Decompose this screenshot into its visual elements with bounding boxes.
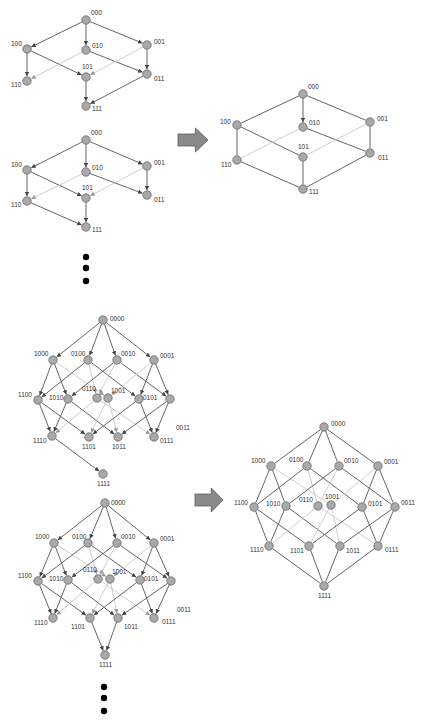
node-0100 bbox=[84, 539, 92, 547]
edge-0011-0111 bbox=[156, 585, 169, 614]
node-1000 bbox=[50, 539, 58, 547]
edge-010-110 bbox=[31, 174, 82, 199]
node-label: 1010 bbox=[49, 575, 64, 582]
node-100 bbox=[23, 166, 31, 174]
node-label: 1100 bbox=[18, 391, 32, 398]
node-1010 bbox=[64, 395, 72, 403]
node-1011 bbox=[336, 542, 344, 550]
node-0010 bbox=[113, 539, 121, 547]
node-0111 bbox=[150, 614, 158, 622]
edge-0000-0010 bbox=[106, 507, 115, 538]
arrow-q3-icon bbox=[178, 128, 208, 152]
node-label: 010 bbox=[92, 42, 103, 49]
node-110 bbox=[23, 77, 31, 85]
dot-icon bbox=[83, 278, 89, 284]
node-label: 1001 bbox=[112, 568, 127, 575]
edge-1001-1101 bbox=[91, 402, 106, 433]
node-101 bbox=[299, 153, 307, 161]
node-label: 1110 bbox=[34, 619, 48, 626]
node-0000 bbox=[101, 499, 109, 507]
node-1011 bbox=[114, 433, 122, 441]
node-010 bbox=[299, 123, 307, 131]
node-label: 0010 bbox=[344, 457, 359, 464]
edge-000-001 bbox=[90, 142, 143, 165]
node-011 bbox=[143, 70, 151, 78]
edge-0011-1011 bbox=[344, 509, 392, 543]
node-1101 bbox=[86, 614, 94, 622]
node-1110 bbox=[265, 542, 273, 550]
graph-q3-directed-b: 000100010001110101011111 bbox=[11, 129, 165, 233]
graph-q4-undirected: 0000100001000010000111001010011010010101… bbox=[234, 420, 415, 599]
node-1111 bbox=[101, 651, 109, 659]
node-label: 1000 bbox=[35, 533, 50, 540]
node-1001 bbox=[327, 501, 335, 509]
edge-0101-0111 bbox=[141, 584, 152, 614]
edge-1010-1011 bbox=[71, 583, 114, 616]
node-label: 1001 bbox=[111, 387, 126, 394]
dot-icon bbox=[83, 254, 89, 260]
node-110 bbox=[23, 197, 31, 205]
node-1001 bbox=[104, 394, 112, 402]
edge-100-101 bbox=[31, 51, 82, 75]
node-label: 1101 bbox=[71, 623, 85, 630]
node-111 bbox=[82, 223, 90, 231]
node-001 bbox=[366, 118, 374, 126]
node-1000 bbox=[49, 356, 57, 364]
edge-001-101 bbox=[307, 124, 366, 155]
edge-0110-1110 bbox=[273, 509, 315, 543]
node-label: 0001 bbox=[160, 352, 175, 359]
node-label: 1110 bbox=[250, 546, 264, 553]
node-label: 100 bbox=[11, 40, 22, 47]
node-label: 0000 bbox=[331, 420, 346, 427]
node-label: 1101 bbox=[82, 443, 96, 450]
node-1101 bbox=[305, 542, 313, 550]
node-label: 110 bbox=[11, 201, 22, 208]
node-1000 bbox=[267, 462, 275, 470]
edge-0100-1100 bbox=[42, 546, 85, 579]
node-label: 001 bbox=[377, 115, 388, 122]
node-0010 bbox=[113, 356, 121, 364]
node-000 bbox=[82, 136, 90, 144]
node-label: 0111 bbox=[160, 437, 174, 444]
node-0000 bbox=[99, 316, 107, 324]
edge-0000-0100 bbox=[90, 507, 104, 539]
node-0111 bbox=[150, 433, 158, 441]
node-label: 0011 bbox=[177, 606, 191, 613]
edge-0011-0111 bbox=[380, 511, 393, 542]
edge-1000-1100 bbox=[256, 470, 270, 503]
ellipsis-q3 bbox=[83, 254, 89, 284]
edge-1101-1111 bbox=[310, 550, 322, 582]
node-011 bbox=[143, 191, 151, 199]
node-label: 0010 bbox=[121, 350, 136, 357]
node-001 bbox=[143, 41, 151, 49]
edge-0010-0011 bbox=[342, 468, 391, 504]
edge-010-011 bbox=[90, 173, 143, 193]
edge-0011-1011 bbox=[122, 401, 167, 434]
edge-1001-1101 bbox=[311, 509, 329, 542]
node-label: 0110 bbox=[83, 566, 97, 573]
edge-110-111 bbox=[241, 162, 299, 187]
node-000 bbox=[82, 16, 90, 24]
edge-0100-1100 bbox=[42, 363, 85, 397]
node-label: 111 bbox=[309, 188, 319, 195]
edge-011-111 bbox=[307, 155, 366, 187]
node-0011 bbox=[166, 395, 174, 403]
edge-010-110 bbox=[31, 52, 82, 79]
node-label: 101 bbox=[298, 143, 309, 150]
node-101 bbox=[82, 194, 90, 202]
edge-010-011 bbox=[90, 52, 143, 73]
node-label: 010 bbox=[92, 164, 103, 171]
node-label: 0010 bbox=[121, 533, 136, 540]
node-0001 bbox=[374, 462, 382, 470]
node-1111 bbox=[99, 470, 107, 478]
node-label: 1010 bbox=[266, 500, 281, 507]
edge-1010-1110 bbox=[55, 584, 67, 614]
node-label: 0001 bbox=[384, 458, 399, 465]
node-label: 0101 bbox=[368, 500, 383, 507]
node-label: 0111 bbox=[385, 546, 399, 553]
edge-1010-1110 bbox=[54, 403, 66, 432]
node-0110 bbox=[94, 575, 102, 583]
node-label: 1111 bbox=[318, 592, 331, 599]
graphs-layer: 0001000100011101010111110001000100011101… bbox=[11, 9, 415, 668]
graph-q4-directed-a: 0000100001000010000111001010011010010101… bbox=[18, 315, 190, 487]
